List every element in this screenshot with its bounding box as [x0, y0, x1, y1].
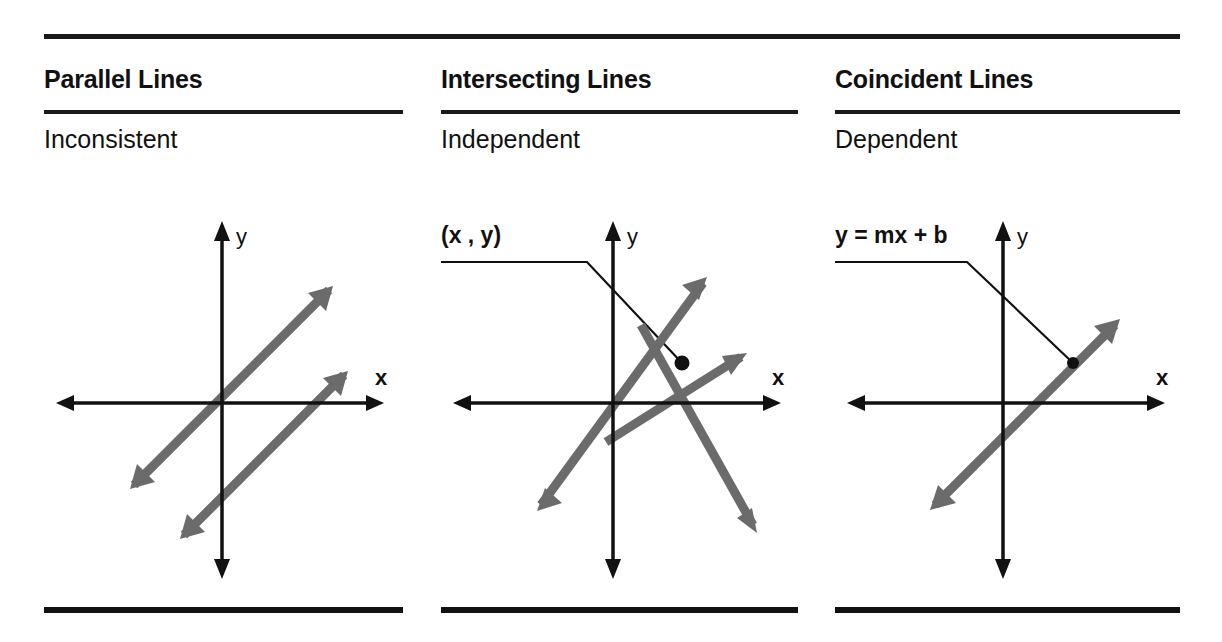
gray-line-coincident — [930, 319, 1120, 510]
panel-subtitle: Independent — [441, 124, 580, 154]
graph-intersecting-lines: x y — [441, 195, 801, 595]
x-axis-label: x — [375, 365, 388, 390]
y-axis-label: y — [1017, 224, 1028, 249]
x-axis — [847, 395, 1165, 411]
panel-columns: Parallel Lines Inconsistent — [0, 0, 1222, 642]
graph-coincident-lines: x y — [835, 195, 1195, 595]
panel-title-rule — [441, 110, 798, 114]
figure-root: Parallel Lines Inconsistent — [0, 0, 1222, 642]
gray-line-upper — [130, 286, 333, 489]
panel-bottom-rule — [835, 607, 1180, 613]
panel-parallel-lines: Parallel Lines Inconsistent — [44, 0, 403, 642]
x-axis-label: x — [772, 365, 785, 390]
graph-parallel-lines: x y — [44, 195, 404, 595]
y-axis-label: y — [627, 224, 638, 249]
panel-title-rule — [835, 110, 1180, 114]
panel-coincident-lines: Coincident Lines Dependent y = mx + b — [835, 0, 1180, 642]
panel-intersecting-lines: Intersecting Lines Independent (x , y) — [441, 0, 798, 642]
callout-leader-line — [441, 262, 682, 363]
panel-subtitle: Dependent — [835, 124, 957, 154]
panel-bottom-rule — [44, 607, 403, 613]
panel-title: Parallel Lines — [44, 64, 202, 94]
panel-title: Intersecting Lines — [441, 64, 651, 94]
panel-title-rule — [44, 110, 403, 114]
gray-line-lower — [180, 371, 348, 539]
intersection-point-dot — [675, 356, 690, 371]
panel-subtitle: Inconsistent — [44, 124, 177, 154]
y-axis-label: y — [236, 224, 247, 249]
y-axis — [995, 221, 1011, 579]
panel-bottom-rule — [441, 607, 798, 613]
panel-title: Coincident Lines — [835, 64, 1033, 94]
x-axis-label: x — [1156, 365, 1169, 390]
callout-leader-line — [835, 262, 1073, 363]
line-point-dot — [1067, 357, 1079, 369]
